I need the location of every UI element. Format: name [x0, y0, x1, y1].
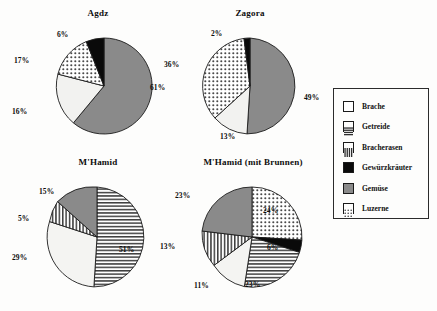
- legend-item-brache: Brache: [334, 96, 428, 117]
- pie-label-agdz-3: 6%: [57, 30, 68, 39]
- pie-graphic-mhamid: [45, 185, 149, 289]
- figure-canvas: Agdz 61% 16% 17% 6%: [0, 0, 437, 311]
- legend-item-gemuese: Gemüse: [334, 178, 428, 199]
- legend-item-getreide: Getreide: [334, 117, 428, 138]
- pie-label-agdz-2: 17%: [14, 56, 29, 65]
- pie-label-mhamidb-5: 23%: [175, 191, 190, 200]
- pie-graphic-agdz: [54, 36, 154, 136]
- legend-swatch-gewuerzkraeuter: [343, 162, 354, 173]
- pie-slice-gemuese: [202, 187, 252, 237]
- legend-label-bracherasen: Bracherasen: [362, 143, 402, 152]
- pie-label-mhamid-2: 5%: [18, 214, 29, 223]
- pattern-horizontal-icon: [344, 127, 353, 136]
- legend-swatch-gemuese: [343, 183, 354, 194]
- pie-graphic-mhamid-brunnen: [200, 185, 304, 289]
- pie-svg-zagora: [200, 36, 300, 136]
- pattern-vertical-icon: [344, 148, 353, 157]
- chart-title-zagora: Zagora: [160, 8, 340, 18]
- legend-label-luzerne: Luzerne: [362, 204, 389, 213]
- pie-label-zagora-1: 13%: [220, 132, 235, 141]
- legend-item-bracherasen: Bracherasen: [334, 137, 428, 158]
- pie-label-mhamidb-1: 6%: [267, 243, 278, 252]
- chart-title-mhamid-brunnen: M'Hamid (mit Brunnen): [158, 157, 348, 167]
- pie-label-mhamid-0: 51%: [119, 245, 134, 254]
- pie-label-mhamid-3: 15%: [39, 187, 54, 196]
- pie-graphic-zagora: [200, 36, 300, 136]
- legend-item-gewuerzkraeuter: Gewürzkräuter: [334, 158, 428, 179]
- pie-svg-agdz: [54, 36, 154, 136]
- legend-swatch-getreide: [343, 121, 354, 132]
- pie-slice-getreide: [94, 187, 144, 287]
- legend-swatch-brache: [343, 101, 354, 112]
- pie-label-zagora-3: 2%: [211, 29, 222, 38]
- pie-svg-mhamid-brunnen: [200, 185, 304, 289]
- legend-swatch-bracherasen: [343, 142, 354, 153]
- pie-slice-gemuese: [247, 38, 295, 134]
- pie-label-agdz-1: 16%: [12, 107, 27, 116]
- pie-svg-mhamid: [45, 185, 149, 289]
- legend-label-brache: Brache: [362, 102, 385, 111]
- legend-label-getreide: Getreide: [362, 122, 390, 131]
- pie-chart-mhamid-brunnen: M'Hamid (mit Brunnen): [158, 157, 348, 307]
- pie-label-mhamidb-4: 13%: [160, 242, 175, 251]
- pie-label-zagora-0: 49%: [304, 93, 319, 102]
- legend-item-luzerne: Luzerne: [334, 199, 428, 220]
- pattern-dotted-icon: [344, 209, 353, 218]
- pie-label-mhamidb-3: 11%: [194, 281, 209, 290]
- pie-chart-zagora: Zagora 49% 13% 36% 2%: [160, 8, 340, 153]
- legend-swatch-luzerne: [343, 203, 354, 214]
- pie-label-mhamidb-0: 24%: [263, 206, 278, 215]
- pie-label-zagora-2: 36%: [164, 60, 179, 69]
- pie-label-mhamidb-2: 23%: [245, 280, 260, 289]
- legend-label-gewuerzkraeuter: Gewürzkräuter: [362, 163, 412, 172]
- legend-box: Brache Getreide: [333, 88, 429, 219]
- pie-label-mhamid-1: 29%: [12, 253, 27, 262]
- legend-label-gemuese: Gemüse: [362, 184, 388, 193]
